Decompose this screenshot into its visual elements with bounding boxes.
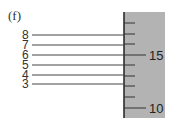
line-label-3: 3 <box>22 77 29 91</box>
panel-label: (f) <box>8 8 21 23</box>
scale-label-15: 15 <box>149 48 163 63</box>
ruler-diagram: (f) 15 10 8 7 6 5 4 3 <box>0 0 178 122</box>
scale-label-10: 10 <box>149 101 163 116</box>
reference-lines <box>32 35 124 84</box>
